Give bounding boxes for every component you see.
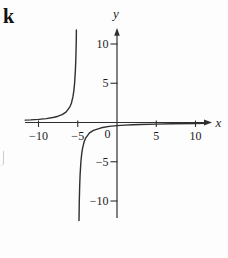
y-tick-label: 5 — [103, 76, 109, 90]
y-tick-label: 10 — [97, 37, 109, 51]
y-axis-arrowhead-icon — [114, 28, 120, 36]
x-axis-arrowhead-icon — [204, 120, 212, 126]
x-tick-label: 5 — [153, 129, 159, 143]
x-tick-label: −5 — [71, 129, 84, 143]
y-tick-label: −5 — [96, 155, 109, 169]
x-axis-label: x — [215, 115, 222, 130]
y-tick-label: −10 — [90, 194, 109, 208]
curve-left-branch — [25, 30, 76, 120]
x-tick-label: 10 — [190, 129, 202, 143]
origin-label: 0 — [105, 127, 111, 141]
figure-root: k −10−5510 105−5−10 x y 0 — [0, 0, 228, 258]
function-plot: −10−5510 105−5−10 x y 0 — [0, 0, 228, 258]
x-tick-label: −10 — [29, 129, 48, 143]
y-axis-label: y — [111, 6, 119, 21]
